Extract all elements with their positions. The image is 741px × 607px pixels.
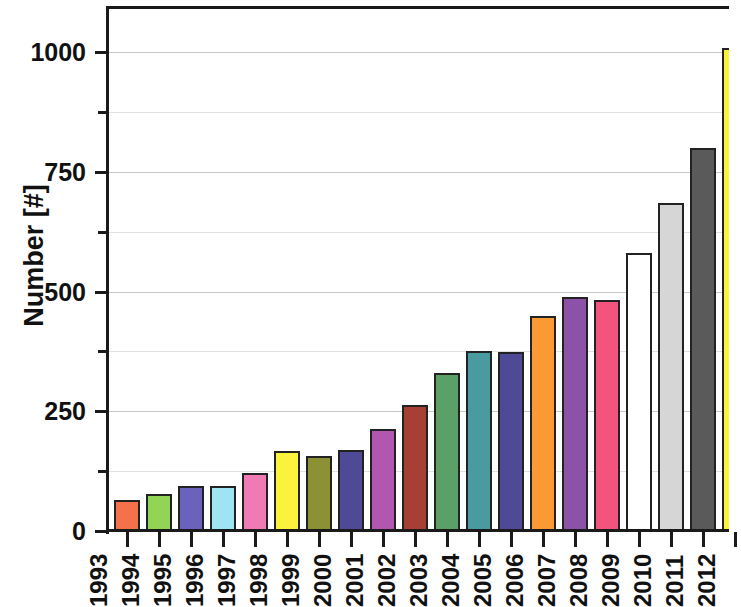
bar [306, 456, 332, 531]
x-tick [734, 532, 737, 547]
bar [530, 316, 556, 531]
x-tick [126, 532, 129, 547]
x-tick [222, 532, 225, 547]
x-tick-label: 2007 [533, 554, 561, 607]
gridline-minor [106, 232, 729, 233]
bar [594, 300, 620, 531]
x-axis-line [106, 529, 729, 532]
x-tick-label: 1997 [213, 554, 241, 607]
x-tick-label: 1994 [117, 554, 145, 607]
bar [658, 203, 684, 531]
y-tick-major [95, 410, 106, 413]
x-tick [286, 532, 289, 547]
x-tick [414, 532, 417, 547]
x-tick-label: 2003 [405, 554, 433, 607]
y-tick-major [95, 171, 106, 174]
x-tick [510, 532, 513, 547]
x-tick [446, 532, 449, 547]
bar [178, 486, 204, 532]
x-tick-label: 1998 [245, 554, 273, 607]
bar [338, 450, 364, 531]
y-tick-label: 250 [0, 397, 86, 426]
x-tick-label: 2005 [469, 554, 497, 607]
y-tick-minor [98, 231, 106, 234]
x-tick [606, 532, 609, 547]
x-tick [542, 532, 545, 547]
bar [370, 429, 396, 531]
x-tick-label: 1993 [85, 554, 113, 607]
x-tick-label: 2002 [373, 554, 401, 607]
x-tick-label: 2008 [565, 554, 593, 607]
bar [626, 253, 652, 531]
y-tick-label: 500 [0, 277, 86, 306]
y-tick-label: 750 [0, 157, 86, 186]
bar [274, 451, 300, 531]
bar [146, 494, 172, 531]
plot-frame-top [106, 6, 729, 9]
x-tick-label: 1996 [181, 554, 209, 607]
x-tick-label: 2011 [661, 555, 689, 607]
x-tick [190, 532, 193, 547]
x-tick [574, 532, 577, 547]
x-tick-label: 1999 [277, 554, 305, 607]
y-tick-label: 1000 [0, 38, 86, 67]
x-tick-label: 1995 [149, 554, 177, 607]
bar [242, 473, 268, 531]
x-tick [158, 532, 161, 547]
x-tick [478, 532, 481, 547]
y-tick-minor [98, 470, 106, 473]
x-tick [670, 532, 673, 547]
bar [466, 351, 492, 531]
y-tick-minor [98, 111, 106, 114]
x-tick [318, 532, 321, 547]
bar [498, 352, 524, 531]
bar [210, 486, 236, 532]
x-tick-label: 2010 [629, 554, 657, 607]
bar [434, 373, 460, 531]
x-tick-label: 2009 [597, 554, 625, 607]
x-tick-label: 2000 [309, 554, 337, 607]
x-tick-label: 2001 [341, 554, 369, 607]
y-tick-major [95, 51, 106, 54]
bar [402, 405, 428, 531]
y-tick-label: 0 [0, 517, 86, 546]
gridline-minor [106, 112, 729, 113]
x-tick [702, 532, 705, 547]
bar [114, 500, 140, 531]
y-tick-minor [98, 350, 106, 353]
x-tick [382, 532, 385, 547]
y-tick-major [95, 530, 106, 533]
bar [722, 48, 729, 531]
plot-area [106, 6, 729, 531]
y-tick-major [95, 291, 106, 294]
gridline-major [106, 172, 729, 173]
x-tick [350, 532, 353, 547]
bar [562, 297, 588, 531]
x-tick-label-slot: 2012 [721, 551, 741, 607]
x-tick-label: 2012 [693, 554, 721, 607]
y-axis-line [106, 6, 109, 534]
gridline-major [106, 52, 729, 53]
x-tick-label: 2004 [437, 554, 465, 607]
x-tick [254, 532, 257, 547]
bar [690, 148, 716, 531]
x-tick-label: 2006 [501, 554, 529, 607]
x-tick [638, 532, 641, 547]
